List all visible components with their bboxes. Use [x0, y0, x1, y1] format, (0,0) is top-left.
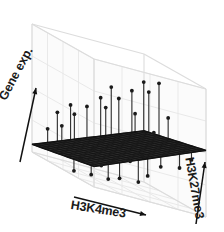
- data-point: [99, 164, 103, 168]
- data-point: [157, 81, 161, 85]
- data-point: [109, 85, 113, 89]
- data-point: [147, 90, 151, 94]
- data-point: [46, 127, 50, 131]
- data-point: [152, 131, 156, 135]
- data-point: [118, 176, 122, 180]
- data-point: [171, 144, 175, 148]
- data-point: [112, 160, 116, 164]
- data-point: [89, 173, 93, 177]
- data-point: [92, 147, 96, 151]
- data-point: [72, 112, 76, 116]
- data-point: [117, 97, 121, 101]
- data-point: [178, 166, 182, 170]
- data-point: [72, 169, 76, 173]
- data-point: [104, 106, 108, 110]
- data-point: [106, 177, 110, 181]
- data-point: [99, 96, 103, 100]
- data-point: [60, 124, 64, 128]
- data-point: [159, 165, 163, 169]
- data-point: [79, 158, 83, 162]
- data-point: [128, 159, 132, 163]
- figure-canvas: Gene exp. H3K4me3 H3K27me3: [0, 0, 224, 232]
- data-point: [146, 174, 150, 178]
- data-point: [130, 89, 134, 93]
- data-point: [166, 116, 170, 120]
- data-point: [140, 153, 144, 157]
- data-point: [121, 140, 125, 144]
- data-point: [136, 180, 140, 184]
- data-point: [55, 110, 59, 114]
- data-point: [142, 80, 146, 84]
- data-point: [133, 112, 137, 116]
- data-point: [69, 103, 73, 107]
- data-point: [85, 105, 89, 109]
